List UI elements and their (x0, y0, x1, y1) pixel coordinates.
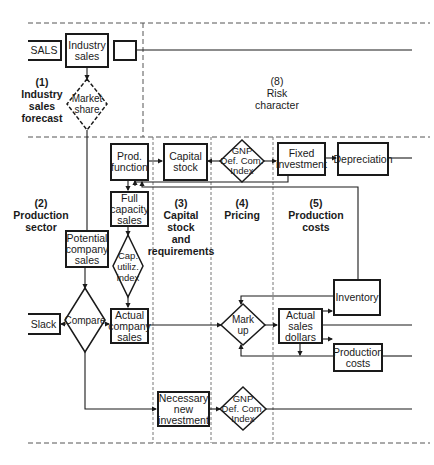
inventory-label: Inventory (335, 292, 378, 303)
compare-label: Compare (64, 315, 105, 326)
section-1-line3: forecast (21, 112, 62, 124)
necessary-line2: new (174, 404, 193, 415)
prod-function-box: Prod. function (110, 143, 149, 181)
section-3-line1: Capital (148, 209, 215, 221)
actual-sales-dollars-box: Actual sales dollars (278, 308, 323, 344)
industry-sales-line1: Industry (68, 40, 105, 51)
empty-box (113, 40, 137, 61)
full-capacity-line3: sales (117, 215, 142, 226)
depreciation-box: Depreciation (337, 142, 389, 176)
depreciation-label: Depreciation (334, 154, 393, 165)
section-1-line2: sales (21, 100, 62, 112)
production-costs-line1: Production (333, 347, 383, 358)
potential-line1: Potential (67, 233, 108, 244)
necessary-line3: investment (158, 415, 209, 426)
inventory-box: Inventory (333, 279, 381, 316)
market-share-line1: Market (72, 93, 103, 104)
compare-text: Compare (64, 315, 105, 326)
slack-box: Slack (28, 313, 61, 335)
fixed-investment-line2: investment (276, 159, 327, 170)
gnp-top-text: GNP Def. Com. Index (221, 146, 264, 176)
capital-stock-box: Capital stock (163, 143, 208, 181)
sals-box: SALS (28, 40, 62, 61)
section-2-line1: Production (13, 209, 68, 221)
cap-utiliz-text: Cap. utiliz. index (117, 250, 140, 283)
section-5-line2: costs (288, 221, 343, 233)
fixed-investment-box: Fixed investment (277, 142, 326, 176)
gnp-bottom-line3: Index (222, 414, 265, 424)
section-4-number: (4) (224, 197, 260, 209)
full-capacity-sales-box: Full capacity sales (110, 191, 149, 227)
section-5-number: (5) (288, 197, 343, 209)
section-4-line1: Pricing (224, 209, 260, 221)
section-2-number: (2) (13, 197, 68, 209)
market-share-text: Market share (72, 93, 103, 115)
potential-line3: sales (75, 255, 100, 266)
market-share-line2: share (72, 104, 103, 115)
section-4-label: (4) Pricing (224, 197, 260, 221)
actual-company-line1: Actual (115, 310, 144, 321)
cap-utiliz-line2: utiliz. (117, 261, 140, 272)
section-8-line1: Risk (255, 87, 299, 99)
section-3-number: (3) (148, 197, 215, 209)
full-capacity-line2: capacity (110, 204, 149, 215)
actual-sales-dollars-line1: Actual (286, 310, 315, 321)
section-3-label: (3) Capital stock and requirements (148, 197, 215, 257)
production-costs-box: Production costs (333, 343, 383, 372)
section-1-line1: Industry (21, 88, 62, 100)
full-capacity-line1: Full (121, 193, 138, 204)
section-3-line2: stock (148, 221, 215, 233)
section-3-line4: requirements (148, 245, 215, 257)
section-1-label: (1) Industry sales forecast (21, 76, 62, 124)
section-8-line2: character (255, 99, 299, 111)
gnp-top-line3: Index (221, 166, 264, 176)
section-3-line3: and (148, 233, 215, 245)
actual-sales-dollars-line2: sales (288, 321, 313, 332)
potential-company-sales-box: Potential company sales (65, 230, 109, 268)
mark-up-line2: up (232, 325, 254, 336)
mark-up-line1: Mark (232, 314, 254, 325)
cap-utiliz-line3: index (117, 272, 140, 283)
section-5-label: (5) Production costs (288, 197, 343, 233)
prod-function-line2: function (111, 162, 148, 173)
section-8-label: (8) Risk character (255, 75, 299, 111)
section-8-number: (8) (255, 75, 299, 87)
section-2-label: (2) Production sector (13, 197, 68, 233)
actual-sales-dollars-line3: dollars (285, 332, 316, 343)
section-1-number: (1) (21, 76, 62, 88)
actual-company-line3: sales (117, 332, 142, 343)
slack-label: Slack (31, 319, 57, 330)
potential-line2: company (66, 244, 109, 255)
actual-company-line2: company (108, 321, 151, 332)
mark-up-text: Mark up (232, 314, 254, 336)
section-2-line2: sector (13, 221, 68, 233)
cap-utiliz-line1: Cap. (117, 250, 140, 261)
sals-label: SALS (31, 45, 58, 56)
capital-stock-line2: stock (173, 162, 198, 173)
necessary-line1: Necessary (159, 393, 209, 404)
industry-sales-box: Industry sales (65, 33, 109, 68)
section-5-line1: Production (288, 209, 343, 221)
actual-company-sales-box: Actual company sales (110, 308, 149, 344)
necessary-new-investment-box: Necessary new investment (157, 391, 210, 427)
production-costs-line2: costs (346, 358, 371, 369)
industry-sales-line2: sales (75, 51, 100, 62)
gnp-bottom-text: GNP Def. Com. Index (222, 394, 265, 424)
